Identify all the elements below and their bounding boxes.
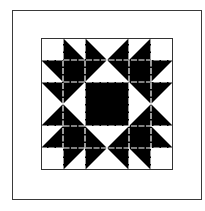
- center-square: [85, 82, 129, 126]
- dark-square: [63, 126, 85, 148]
- quilt-block: [41, 38, 173, 170]
- dark-square: [129, 60, 151, 82]
- dark-square: [129, 126, 151, 148]
- dark-square: [63, 60, 85, 82]
- quilt-block-svg: [41, 38, 173, 170]
